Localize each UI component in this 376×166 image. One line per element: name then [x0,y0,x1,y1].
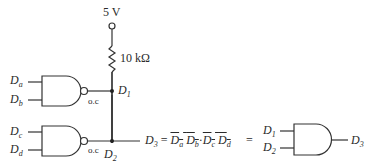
gate1-oc-label: o.c [88,95,99,107]
input-dc-label: Dc [10,125,22,142]
output-expression: D3 = Da Db·Dc Dd [145,134,231,151]
node-d2-label: D2 [104,148,117,165]
input-dd-label: Dd [10,143,23,160]
nand-gate-2-icon [42,126,81,156]
resistor-value-label: 10 kΩ [120,52,150,64]
resistor-icon [109,46,115,72]
nand-gate-1-icon [42,76,81,106]
and-input-d1-label: D1 [263,124,276,141]
and-input-d2-label: D2 [263,141,276,158]
equivalence-sign: = [246,134,253,146]
junction-d1-icon [110,89,114,93]
and-output-d3-label: D3 [351,134,364,151]
supply-terminal-icon [109,23,115,29]
junction-d2-icon [110,139,114,143]
gate2-oc-label: o.c [88,144,99,156]
supply-voltage-label: 5 V [103,6,120,18]
node-d1-label: D1 [118,84,131,101]
input-da-label: Da [10,74,23,91]
and-gate-icon [294,124,332,155]
input-db-label: Db [10,93,23,110]
